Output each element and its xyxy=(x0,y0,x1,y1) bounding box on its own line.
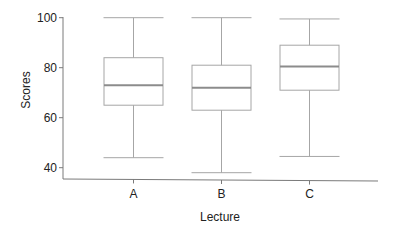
box-b xyxy=(192,18,252,173)
y-tick-label: 40 xyxy=(44,161,58,175)
y-axis-ticks: 406080100 xyxy=(37,11,63,175)
y-tick-label: 80 xyxy=(44,61,58,75)
x-axis-line xyxy=(63,179,378,181)
box-a xyxy=(104,18,164,158)
y-axis-title: Scores xyxy=(19,71,33,108)
x-tick-label-b: B xyxy=(217,187,225,201)
y-tick-label: 60 xyxy=(44,111,58,125)
y-tick-label: 100 xyxy=(37,11,57,25)
x-axis-ticks: ABC xyxy=(129,179,314,201)
iqr-box xyxy=(104,58,163,105)
x-tick-label-c: C xyxy=(305,187,314,201)
x-axis-title: Lecture xyxy=(200,210,240,224)
x-tick-label-a: A xyxy=(129,187,137,201)
plot-area xyxy=(104,18,340,173)
iqr-box xyxy=(280,45,339,90)
box-c xyxy=(280,19,340,157)
box-plot-chart: 406080100 ABC Lecture Scores xyxy=(0,0,399,235)
